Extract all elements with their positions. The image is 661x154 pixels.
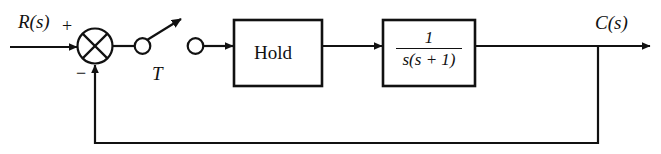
block-diagram-graphics [0, 0, 661, 154]
block-diagram-canvas: R(s) + − T Hold 1 s(s + 1) C(s) [0, 0, 661, 154]
sampler-output-contact [188, 38, 204, 54]
plant-transfer-function-numerator: 1 [421, 29, 438, 48]
summing-junction-plus-sign: + [62, 17, 72, 35]
summing-junction-minus-sign: − [76, 64, 86, 82]
feedback-path-line [95, 46, 598, 143]
plant-transfer-function-denominator: s(s + 1) [398, 49, 459, 69]
sampler-switch-arm [147, 19, 181, 40]
output-signal-label: C(s) [595, 13, 628, 32]
hold-block-label: Hold [254, 43, 292, 62]
sampling-period-label: T [152, 64, 163, 83]
input-signal-label: R(s) [18, 12, 50, 31]
plant-transfer-function: 1 s(s + 1) [396, 29, 462, 69]
